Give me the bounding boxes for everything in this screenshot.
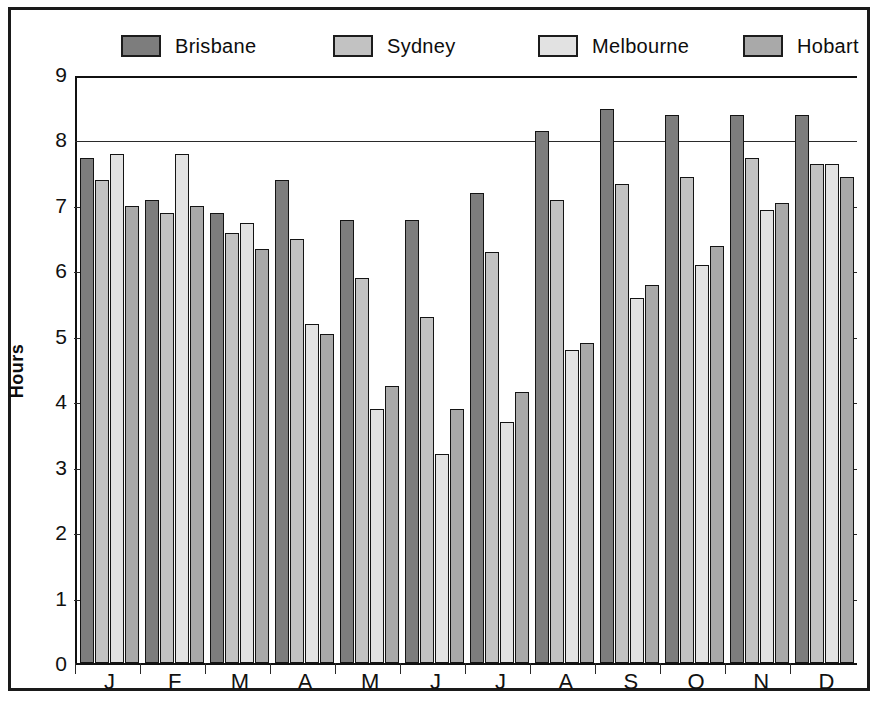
- x-axis-tick-label: J: [77, 669, 142, 705]
- bar-brisbane-A3[interactable]: [275, 180, 289, 663]
- bar-group-J-6: [467, 76, 532, 663]
- x-axis-tick-label: A: [533, 669, 598, 705]
- bar-melbourne-J6[interactable]: [500, 422, 514, 663]
- y-axis-tick-label: 6: [27, 259, 67, 283]
- bar-hobart-M2[interactable]: [255, 249, 269, 663]
- bar-hobart-J6[interactable]: [515, 392, 529, 663]
- bar-melbourne-N10[interactable]: [760, 210, 774, 663]
- bar-melbourne-A7[interactable]: [565, 350, 579, 663]
- legend-swatch-sydney: [333, 35, 373, 57]
- bar-sydney-S8[interactable]: [615, 184, 629, 663]
- bar-group-O-9: [662, 76, 727, 663]
- legend-swatch-brisbane: [121, 35, 161, 57]
- bar-group-F-1: [142, 76, 207, 663]
- bar-hobart-N10[interactable]: [775, 203, 789, 663]
- bar-hobart-A3[interactable]: [320, 334, 334, 663]
- bar-hobart-O9[interactable]: [710, 246, 724, 663]
- bar-hobart-A7[interactable]: [580, 343, 594, 663]
- bar-sydney-A7[interactable]: [550, 200, 564, 663]
- x-axis-tick-label: J: [468, 669, 533, 705]
- bar-group-A-3: [272, 76, 337, 663]
- bar-hobart-F1[interactable]: [190, 206, 204, 663]
- bar-group-J-5: [402, 76, 467, 663]
- legend-swatch-melbourne: [538, 35, 578, 57]
- y-axis-tick-label: 9: [27, 63, 67, 87]
- bar-melbourne-S8[interactable]: [630, 298, 644, 663]
- bar-sydney-F1[interactable]: [160, 213, 174, 663]
- outer-frame: BrisbaneSydneyMelbourneHobart Hours 9876…: [8, 7, 870, 691]
- bar-melbourne-D11[interactable]: [825, 164, 839, 663]
- legend-label: Melbourne: [592, 35, 689, 58]
- bar-brisbane-S8[interactable]: [600, 109, 614, 663]
- bar-brisbane-M4[interactable]: [340, 220, 354, 664]
- y-axis-tick-label: 7: [27, 194, 67, 218]
- bar-hobart-J5[interactable]: [450, 409, 464, 663]
- bars-layer: [77, 76, 857, 663]
- bar-hobart-M4[interactable]: [385, 386, 399, 663]
- bar-brisbane-N10[interactable]: [730, 115, 744, 663]
- x-axis-tick: [75, 663, 76, 674]
- bar-brisbane-D11[interactable]: [795, 115, 809, 663]
- x-axis-tick-label: J: [403, 669, 468, 705]
- bar-group-S-8: [597, 76, 662, 663]
- bar-group-M-2: [207, 76, 272, 663]
- legend-label: Sydney: [387, 35, 456, 58]
- legend-entry-melbourne[interactable]: Melbourne: [538, 35, 743, 58]
- bar-sydney-N10[interactable]: [745, 158, 759, 663]
- x-axis-tick-label: O: [664, 669, 729, 705]
- bar-group-M-4: [337, 76, 402, 663]
- bar-hobart-D11[interactable]: [840, 177, 854, 663]
- bar-sydney-O9[interactable]: [680, 177, 694, 663]
- bar-sydney-J5[interactable]: [420, 317, 434, 663]
- bar-brisbane-J5[interactable]: [405, 220, 419, 664]
- bar-brisbane-J0[interactable]: [80, 158, 94, 663]
- x-axis-tick-label: S: [598, 669, 663, 705]
- chart-legend: BrisbaneSydneyMelbourneHobart: [121, 31, 861, 61]
- y-axis-tick-label: 8: [27, 128, 67, 152]
- legend-swatch-hobart: [743, 35, 783, 57]
- legend-entry-brisbane[interactable]: Brisbane: [121, 35, 333, 58]
- bar-melbourne-F1[interactable]: [175, 154, 189, 663]
- bar-sydney-M2[interactable]: [225, 233, 239, 663]
- y-axis-tick-label: 5: [27, 325, 67, 349]
- x-axis-labels: JFMAMJJASOND: [77, 669, 859, 705]
- bar-brisbane-J6[interactable]: [470, 193, 484, 663]
- legend-label: Hobart: [797, 35, 859, 58]
- bar-melbourne-J5[interactable]: [435, 454, 449, 663]
- y-axis-tick-label: 3: [27, 456, 67, 480]
- legend-label: Brisbane: [175, 35, 256, 58]
- bar-melbourne-M4[interactable]: [370, 409, 384, 663]
- legend-entry-hobart[interactable]: Hobart: [743, 35, 861, 58]
- bar-sydney-A3[interactable]: [290, 239, 304, 663]
- bar-melbourne-A3[interactable]: [305, 324, 319, 663]
- bar-group-J-0: [77, 76, 142, 663]
- bar-brisbane-A7[interactable]: [535, 131, 549, 663]
- bar-melbourne-O9[interactable]: [695, 265, 709, 663]
- bar-hobart-J0[interactable]: [125, 206, 139, 663]
- bar-brisbane-F1[interactable]: [145, 200, 159, 663]
- y-axis-title: Hours: [7, 343, 28, 398]
- x-axis-tick-label: M: [207, 669, 272, 705]
- x-axis-tick-label: A: [273, 669, 338, 705]
- chart-page: BrisbaneSydneyMelbourneHobart Hours 9876…: [0, 0, 884, 706]
- x-axis-tick-label: D: [794, 669, 859, 705]
- bar-melbourne-M2[interactable]: [240, 223, 254, 663]
- bar-hobart-S8[interactable]: [645, 285, 659, 663]
- bar-group-A-7: [532, 76, 597, 663]
- x-axis-tick-label: N: [729, 669, 794, 705]
- bar-brisbane-O9[interactable]: [665, 115, 679, 663]
- y-axis-tick-label: 4: [27, 390, 67, 414]
- bar-melbourne-J0[interactable]: [110, 154, 124, 663]
- bar-sydney-M4[interactable]: [355, 278, 369, 663]
- bar-sydney-D11[interactable]: [810, 164, 824, 663]
- bar-group-D-11: [792, 76, 857, 663]
- bar-sydney-J6[interactable]: [485, 252, 499, 663]
- bar-brisbane-M2[interactable]: [210, 213, 224, 663]
- bar-sydney-J0[interactable]: [95, 180, 109, 663]
- x-axis-tick-label: M: [338, 669, 403, 705]
- bar-group-N-10: [727, 76, 792, 663]
- legend-entry-sydney[interactable]: Sydney: [333, 35, 538, 58]
- y-axis-tick-label: 2: [27, 521, 67, 545]
- y-axis-tick-label: 0: [27, 652, 67, 676]
- chart-plot-area: Hours 9876543210: [75, 76, 857, 665]
